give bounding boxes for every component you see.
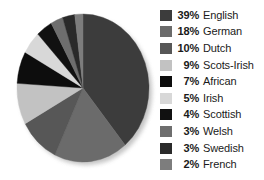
legend-text: 3%Welsh — [177, 126, 233, 137]
legend-text: 3%Swedish — [177, 143, 244, 154]
legend-color-swatch — [160, 76, 172, 87]
legend-item[interactable]: 18%German — [158, 24, 264, 41]
legend-label: Irish — [203, 93, 223, 104]
legend-percent: 10% — [177, 43, 199, 54]
legend-label: Scots-Irish — [203, 60, 254, 71]
legend-text: 5%Irish — [177, 93, 223, 104]
legend-label: German — [203, 26, 242, 37]
legend-item[interactable]: 3%Swedish — [158, 140, 264, 157]
legend-item[interactable]: 39%English — [158, 7, 264, 24]
legend-text: 10%Dutch — [177, 43, 231, 54]
legend-text: 39%English — [177, 10, 238, 21]
chart-legend: 39%English18%German10%Dutch9%Scots-Irish… — [158, 7, 264, 179]
legend-color-swatch — [160, 43, 172, 54]
legend-item[interactable]: 4%Scottish — [158, 107, 264, 124]
legend-percent: 9% — [177, 60, 199, 71]
legend-color-swatch — [160, 159, 172, 170]
legend-color-swatch — [160, 10, 172, 21]
legend-label: African — [203, 76, 237, 87]
legend-item[interactable]: 5%Irish — [158, 90, 264, 107]
legend-percent: 2% — [177, 159, 199, 170]
legend-text: 4%Scottish — [177, 109, 241, 120]
legend-color-swatch — [160, 60, 172, 71]
legend-color-swatch — [160, 143, 172, 154]
legend-color-swatch — [160, 93, 172, 104]
legend-color-swatch — [160, 109, 172, 120]
legend-percent: 4% — [177, 109, 199, 120]
legend-label: Scottish — [203, 109, 241, 120]
legend-label: French — [203, 159, 237, 170]
legend-label: Dutch — [203, 43, 231, 54]
pie-slice-group — [17, 14, 149, 162]
pie-chart-area — [0, 0, 158, 180]
legend-color-swatch — [160, 26, 172, 37]
legend-item[interactable]: 2%French — [158, 156, 264, 173]
legend-color-swatch — [160, 126, 172, 137]
legend-item[interactable]: 7%African — [158, 73, 264, 90]
legend-percent: 39% — [177, 10, 199, 21]
pie-chart — [16, 13, 150, 163]
legend-text: 18%German — [177, 26, 242, 37]
legend-percent: 18% — [177, 26, 199, 37]
legend-label: English — [203, 10, 238, 21]
legend-percent: 3% — [177, 126, 199, 137]
legend-percent: 5% — [177, 93, 199, 104]
legend-item[interactable]: 10%Dutch — [158, 40, 264, 57]
legend-percent: 3% — [177, 143, 199, 154]
legend-label: Swedish — [203, 143, 244, 154]
legend-item[interactable]: 3%Welsh — [158, 123, 264, 140]
legend-text: 9%Scots-Irish — [177, 60, 254, 71]
chart-page: 39%English18%German10%Dutch9%Scots-Irish… — [0, 0, 264, 180]
legend-item[interactable]: 9%Scots-Irish — [158, 57, 264, 74]
legend-percent: 7% — [177, 76, 199, 87]
legend-text: 2%French — [177, 159, 237, 170]
legend-text: 7%African — [177, 76, 237, 87]
legend-label: Welsh — [203, 126, 233, 137]
